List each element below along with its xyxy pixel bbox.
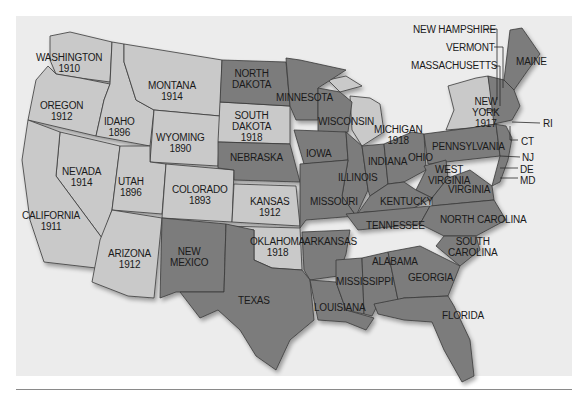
label-new-york: NEW YORK 1917 bbox=[472, 96, 500, 129]
label-kentucky: KENTUCKY bbox=[380, 196, 433, 207]
label-ct: CT bbox=[521, 136, 534, 147]
label-kansas: KANSAS 1912 bbox=[250, 196, 289, 218]
label-illinois: ILLINOIS bbox=[338, 172, 378, 183]
label-west-virginia: WEST VIRGINIA bbox=[428, 164, 470, 186]
label-de: DE bbox=[520, 164, 534, 175]
label-louisiana: LOUISIANA bbox=[314, 302, 366, 313]
label-north-dakota: NORTH DAKOTA bbox=[232, 68, 271, 90]
label-california: CALIFORNIA 1911 bbox=[22, 210, 80, 232]
label-new-hampshire: NEW HAMPSHIRE bbox=[413, 24, 496, 35]
label-wisconsin: WISCONSIN bbox=[318, 116, 374, 127]
label-idaho: IDAHO 1896 bbox=[104, 116, 135, 138]
label-nevada: NEVADA 1914 bbox=[62, 166, 101, 188]
label-texas: TEXAS bbox=[238, 295, 270, 306]
label-pennsylvania: PENNSYLVANIA bbox=[432, 141, 505, 152]
label-vermont: VERMONT bbox=[446, 42, 495, 53]
label-md: MD bbox=[520, 175, 535, 186]
label-tennessee: TENNESSEE bbox=[366, 220, 425, 231]
label-oregon: OREGON 1912 bbox=[40, 100, 83, 122]
label-utah: UTAH 1896 bbox=[118, 176, 144, 198]
label-virginia: VIRGINIA bbox=[448, 184, 490, 195]
label-washington: WASHINGTON 1910 bbox=[36, 52, 102, 74]
map-container: WASHINGTON 1910OREGON 1912IDAHO 1896MONT… bbox=[0, 0, 584, 400]
label-nj: NJ bbox=[522, 152, 534, 163]
label-colorado: COLORADO 1893 bbox=[172, 184, 228, 206]
label-mississippi: MISSISSIPPI bbox=[336, 276, 393, 287]
label-wyoming: WYOMING 1890 bbox=[156, 132, 205, 154]
label-minnesota: MINNESOTA bbox=[276, 92, 333, 103]
label-south-dakota: SOUTH DAKOTA 1918 bbox=[232, 110, 271, 143]
state-florida bbox=[374, 296, 474, 382]
label-north-carolina: NORTH CAROLINA bbox=[440, 214, 526, 225]
label-iowa: IOWA bbox=[306, 148, 332, 159]
label-new-mexico: NEW MEXICO bbox=[170, 246, 208, 268]
bottom-divider bbox=[16, 389, 572, 390]
label-arizona: ARIZONA 1912 bbox=[108, 248, 151, 270]
label-oklahoma: OKLAHOMA 1918 bbox=[250, 236, 305, 258]
label-indiana: INDIANA bbox=[368, 156, 407, 167]
label-georgia: GEORGIA bbox=[408, 272, 453, 283]
label-michigan: MICHIGAN 1918 bbox=[374, 124, 422, 146]
label-nebraska: NEBRASKA bbox=[230, 152, 283, 163]
label-ri: RI bbox=[543, 118, 553, 129]
label-ohio: OHIO bbox=[408, 152, 433, 163]
label-arkansas: ARKANSAS bbox=[304, 236, 357, 247]
label-south-carolina: SOUTH CAROLINA bbox=[448, 236, 498, 258]
label-alabama: ALABAMA bbox=[372, 256, 418, 267]
label-montana: MONTANA 1914 bbox=[148, 80, 196, 102]
label-massachusetts: MASSACHUSETTS bbox=[411, 60, 497, 71]
label-maine: MAINE bbox=[516, 56, 547, 67]
label-florida: FLORIDA bbox=[442, 310, 484, 321]
label-missouri: MISSOURI bbox=[310, 196, 358, 207]
